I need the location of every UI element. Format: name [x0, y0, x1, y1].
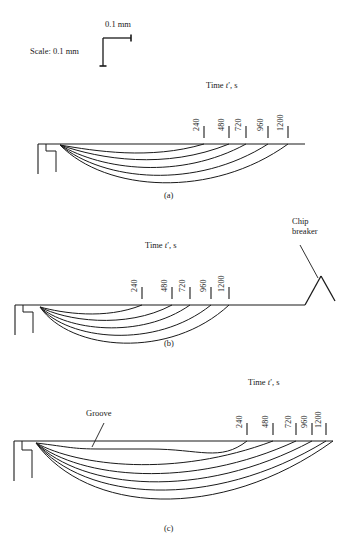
panel-a-tick-label-720: 720 [234, 118, 243, 131]
scale-bar [100, 35, 132, 67]
panel-b-time-header: Time t′, s [145, 240, 177, 250]
time-header-suffix: ′, s [167, 240, 176, 250]
panel-b-tick-label-1200: 1200 [217, 275, 226, 292]
panel-a-graphic [38, 126, 305, 183]
panel-c-tick-label-480: 480 [261, 415, 270, 428]
panel-c-caption: (c) [164, 523, 173, 533]
panel-b-tick-label-480: 480 [160, 279, 169, 292]
chip-breaker-label-line2: breaker [292, 226, 317, 236]
groove-leader-line [92, 423, 104, 447]
panel-a-tick-label-480: 480 [217, 118, 226, 131]
groove-profile [36, 441, 247, 453]
panel-b-graphic [15, 245, 335, 343]
panel-c-wear-curves [36, 441, 333, 499]
chip-breaker-label-line1: Chip [292, 216, 317, 226]
panel-a-wear-curves [60, 144, 288, 183]
panel-c-tick-label-960: 960 [300, 415, 309, 428]
time-header-prefix: Time [248, 377, 268, 387]
panel-c-tick-label-240: 240 [235, 415, 244, 428]
chip-breaker-leader-line [300, 245, 318, 278]
chip-breaker-shape [305, 276, 335, 305]
panel-c-tick-label-1200: 1200 [314, 411, 323, 428]
time-header-prefix: Time [145, 240, 165, 250]
panel-a-tick-label-1200: 1200 [276, 114, 285, 131]
panel-b-tick-label-960: 960 [199, 279, 208, 292]
chip-breaker-label: Chip breaker [292, 216, 317, 236]
tool-wear-figure-svg [0, 0, 349, 543]
scale-vertical-label: Scale: 0.1 mm [30, 47, 79, 57]
panel-c-time-header: Time t′, s [248, 377, 280, 387]
groove-label: Groove [86, 409, 112, 419]
panel-c-graphic [14, 423, 333, 499]
panel-b-tick-label-240: 240 [130, 279, 139, 292]
panel-a-caption: (a) [164, 190, 173, 200]
wear-curve-720 [36, 441, 312, 482]
figure-container: Scale: 0.1 mm 0.1 mm Time t′, s 240 480 … [0, 0, 349, 543]
panel-a-tick-label-960: 960 [256, 118, 265, 131]
time-header-suffix: ′, s [270, 377, 279, 387]
time-header-prefix: Time [206, 80, 226, 90]
wear-curve-720 [40, 305, 190, 328]
wear-curve-720 [60, 144, 246, 167]
wear-curve-1200 [40, 305, 229, 343]
panel-b-caption: (b) [164, 338, 174, 348]
panel-b-tick-label-720: 720 [178, 279, 187, 292]
panel-c-tick-label-720: 720 [284, 415, 293, 428]
panel-a-tick-label-240: 240 [192, 118, 201, 131]
wear-curve-240 [40, 305, 142, 314]
panel-a-time-header: Time t′, s [206, 80, 238, 90]
wear-curve-960 [40, 305, 211, 335]
panel-b-wear-curves [40, 305, 229, 343]
time-header-suffix: ′, s [228, 80, 237, 90]
scale-horizontal-label: 0.1 mm [105, 20, 131, 30]
